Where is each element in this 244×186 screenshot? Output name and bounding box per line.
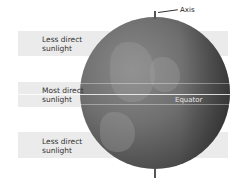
axis-bottom-stub bbox=[154, 168, 156, 178]
band-label-line: sunlight bbox=[42, 146, 82, 155]
axis-leader-line bbox=[158, 9, 178, 13]
tropic-line-north bbox=[80, 83, 230, 84]
earth-globe bbox=[80, 17, 230, 169]
tropic-line-south bbox=[80, 104, 230, 105]
band-label-line: Less direct bbox=[42, 137, 82, 146]
globe-shadow bbox=[180, 17, 230, 169]
band-label-line: sunlight bbox=[42, 95, 84, 104]
continent-shape bbox=[100, 112, 135, 152]
band-label-middle: Most direct sunlight bbox=[42, 86, 84, 104]
band-label-line: Most direct bbox=[42, 86, 84, 95]
axis-label: Axis bbox=[180, 6, 195, 14]
axis-top-stub bbox=[154, 11, 156, 19]
band-label-line: Less direct bbox=[42, 35, 82, 44]
band-label-line: sunlight bbox=[42, 44, 82, 53]
continent-shape bbox=[110, 42, 155, 102]
continent-shape bbox=[150, 57, 180, 92]
equator-label: Equator bbox=[175, 96, 203, 104]
band-label-lower: Less direct sunlight bbox=[42, 137, 82, 155]
band-label-upper: Less direct sunlight bbox=[42, 35, 82, 53]
